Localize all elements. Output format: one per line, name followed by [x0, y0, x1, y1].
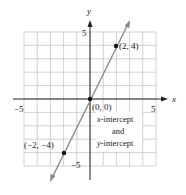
- annotation-line-2: and: [112, 126, 125, 136]
- point-neg2-neg4: [62, 151, 66, 155]
- line-bottom-arrow-icon: [50, 174, 56, 182]
- annotation-line-1: x-intercept: [96, 114, 134, 124]
- line-top-arrow-icon: [125, 20, 131, 28]
- y-axis-label: y: [86, 6, 91, 16]
- point-origin: [88, 97, 92, 101]
- x-axis-arrow-icon: [161, 97, 168, 102]
- y-tick-pos5: 5: [82, 28, 87, 38]
- coordinate-plane-chart: x y −5 5 5 −5 (2, 4) (0, 0) (−2, −4) x-i…: [0, 0, 186, 195]
- annotation-line-3: y-intercept: [96, 138, 134, 148]
- y-tick-neg5: −5: [71, 160, 81, 170]
- y-axis-arrow-icon: [88, 20, 93, 27]
- label-point-2-4: (2, 4): [119, 41, 139, 51]
- label-point-neg: (−2, −4): [24, 140, 54, 150]
- label-point-origin: (0, 0): [92, 102, 112, 112]
- point-2-4: [114, 44, 118, 48]
- x-tick-neg5: −5: [14, 104, 24, 114]
- x-tick-pos5: 5: [151, 104, 156, 114]
- x-axis-label: x: [171, 94, 176, 104]
